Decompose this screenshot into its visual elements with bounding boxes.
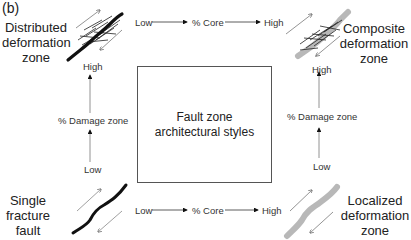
- single-fracture-fault-icon: [73, 185, 126, 233]
- composite-deformation-fault-icon: [286, 12, 348, 56]
- localized-deformation-fault-icon: [287, 187, 337, 236]
- distributed-deformation-fault-icon: [68, 10, 122, 60]
- diagram-graphics: [0, 0, 411, 240]
